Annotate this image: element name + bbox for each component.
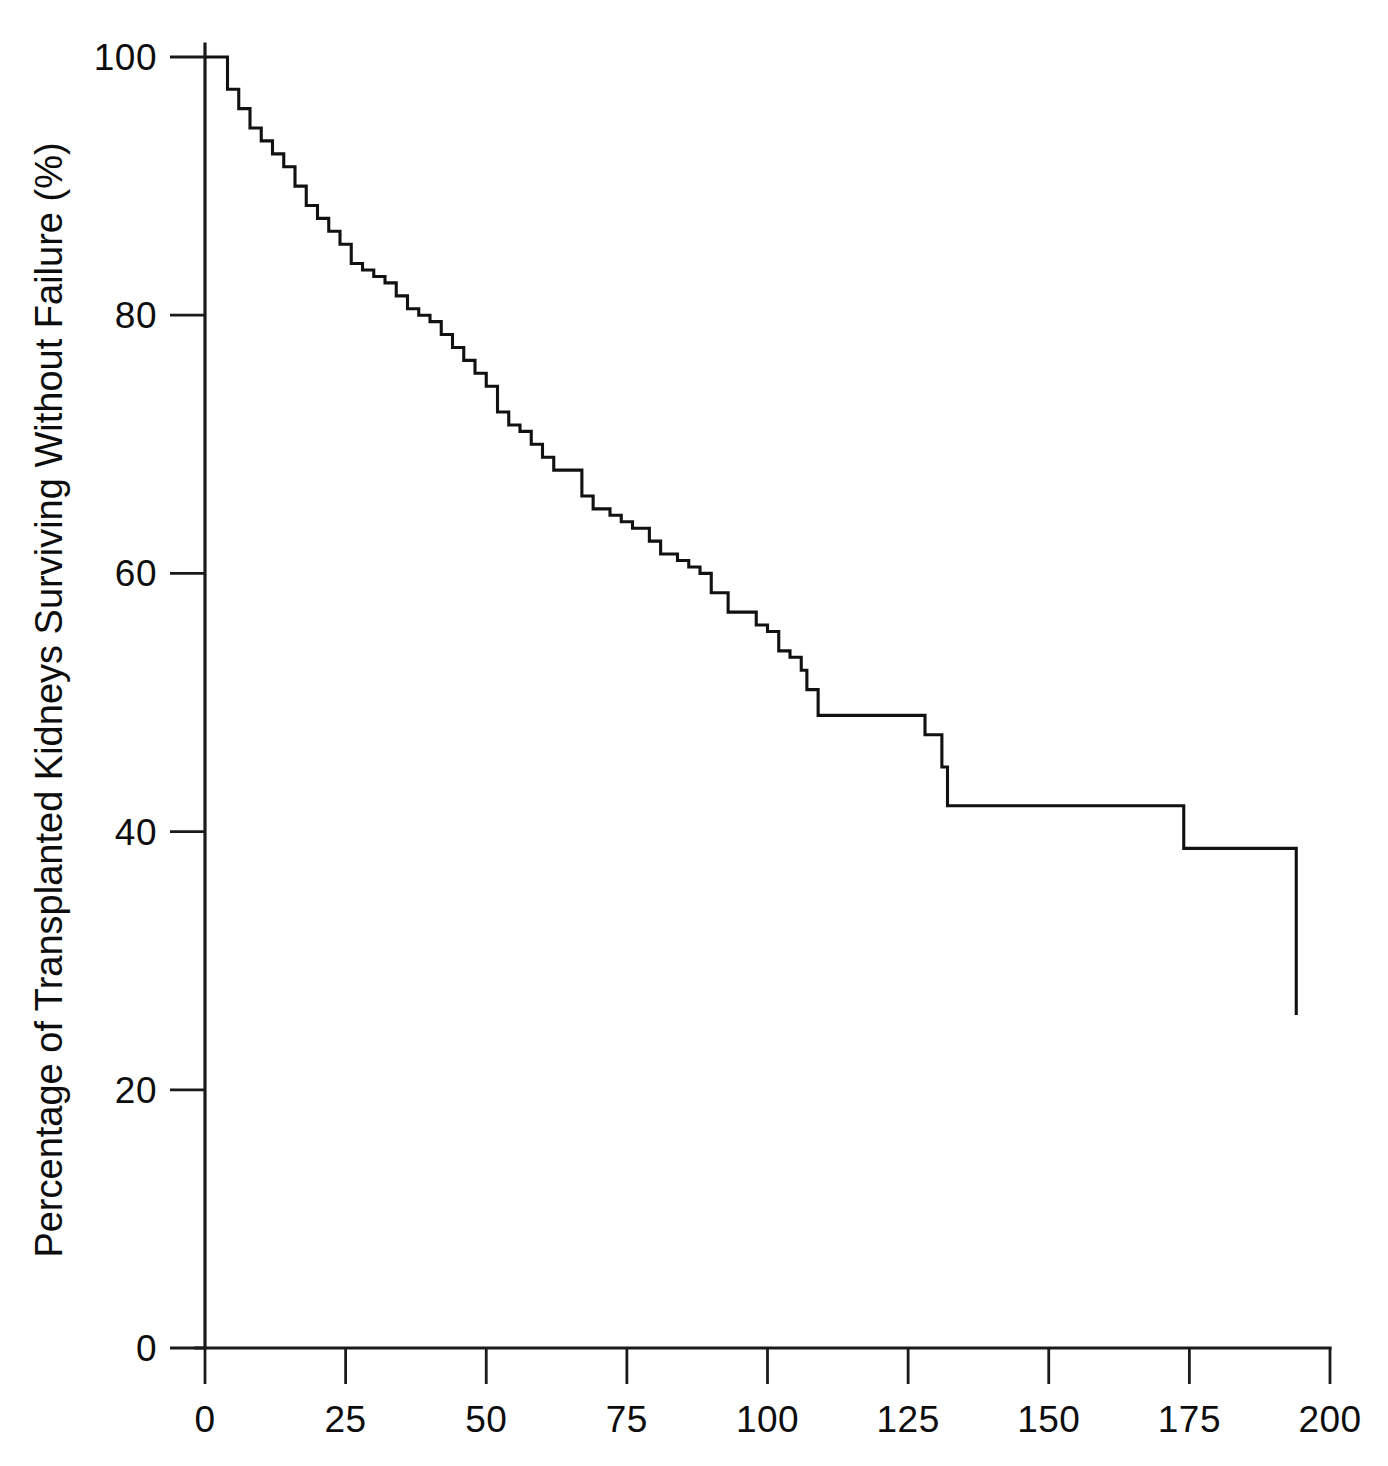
y-tick-label: 100 [94,37,157,78]
x-axis-ticks: 0255075100125150175200 [194,1348,1361,1440]
axes-group [196,44,1330,1348]
x-tick-label: 0 [194,1399,215,1440]
x-tick-label: 50 [465,1399,507,1440]
y-tick-label: 60 [115,553,157,594]
x-tick-label: 25 [325,1399,367,1440]
x-tick-label: 150 [1017,1399,1080,1440]
x-tick-label: 75 [606,1399,648,1440]
x-tick-label: 200 [1298,1399,1361,1440]
x-tick-label: 125 [877,1399,940,1440]
y-tick-label: 20 [115,1070,157,1111]
survival-chart-figure: Percentage of Transplanted Kidneys Survi… [0,0,1388,1466]
y-axis-ticks: 020406080100 [94,37,205,1369]
survival-step-curve [205,57,1296,1015]
y-tick-label: 40 [115,812,157,853]
x-tick-label: 100 [736,1399,799,1440]
y-tick-label: 80 [115,295,157,336]
x-tick-label: 175 [1158,1399,1221,1440]
y-axis-title: Percentage of Transplanted Kidneys Survi… [28,142,70,1257]
y-tick-label: 0 [136,1328,157,1369]
chart-canvas: Percentage of Transplanted Kidneys Survi… [0,0,1388,1466]
